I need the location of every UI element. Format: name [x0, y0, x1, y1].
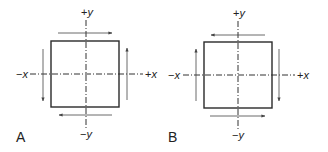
pos-y-label: +y — [81, 6, 94, 18]
panel-b-label: B — [168, 129, 177, 145]
pos-x-label: +x — [297, 69, 309, 81]
neg-x-label: −x — [168, 69, 180, 81]
panel-b: +y −y −x +x B — [168, 7, 309, 145]
pos-y-label: +y — [233, 7, 246, 19]
panel-a-label: A — [16, 129, 26, 145]
panel-a: +y −y −x +x A — [16, 6, 157, 145]
neg-y-label: −y — [80, 128, 93, 140]
neg-y-label: −y — [232, 129, 245, 141]
pos-x-label: +x — [145, 68, 157, 80]
shear-diagram: +y −y −x +x A +y −y −x +x B — [0, 0, 328, 152]
neg-x-label: −x — [16, 68, 28, 80]
